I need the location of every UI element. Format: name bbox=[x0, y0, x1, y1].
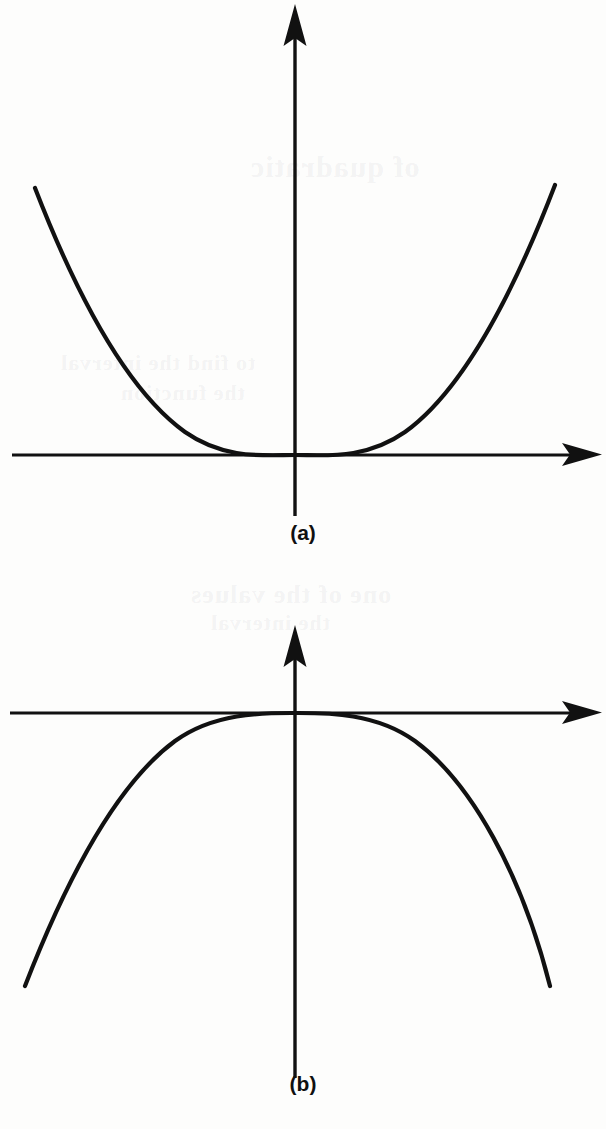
downward-parabola-curve bbox=[25, 713, 550, 986]
panel-b-caption: (b) bbox=[0, 1072, 606, 1096]
figure-page: of quadratic to find the interval the fu… bbox=[0, 0, 606, 1129]
chart-panel-a bbox=[0, 0, 606, 565]
chart-panel-b bbox=[0, 565, 606, 1129]
y-axis-a bbox=[284, 4, 307, 516]
panel-a-caption: (a) bbox=[0, 521, 606, 545]
y-axis-b bbox=[284, 625, 307, 1078]
